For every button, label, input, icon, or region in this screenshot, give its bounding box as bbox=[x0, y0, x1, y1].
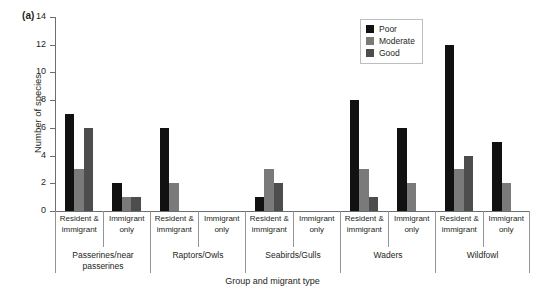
category-axis: Resident & immigrantImmigrant onlyReside… bbox=[55, 211, 530, 273]
x-axis-title: Group and migrant type bbox=[0, 276, 545, 286]
bar-moderate-2 bbox=[169, 183, 179, 211]
bar-moderate-9 bbox=[502, 183, 512, 211]
bar-moderate-8 bbox=[454, 169, 464, 211]
y-axis-title: Number of species bbox=[32, 34, 43, 194]
y-axis-line bbox=[55, 17, 56, 211]
y-axis-tick-label: 8 bbox=[41, 94, 46, 104]
group-label: Passerines/near passerines bbox=[55, 247, 150, 273]
y-axis-tick-label: 0 bbox=[41, 205, 46, 215]
legend-label: Good bbox=[379, 48, 400, 58]
legend-item: Good bbox=[366, 47, 415, 59]
bar-moderate-4 bbox=[264, 169, 274, 211]
subcategory-label: Resident & immigrant bbox=[435, 211, 483, 247]
legend-swatch-icon bbox=[366, 49, 374, 57]
bar-moderate-7 bbox=[407, 183, 417, 211]
legend-swatch-icon bbox=[366, 25, 374, 33]
subcategory-label: Resident & immigrant bbox=[340, 211, 388, 247]
legend-label: Poor bbox=[379, 24, 397, 34]
group-label: Raptors/Owls bbox=[150, 247, 245, 273]
group-row: Passerines/near passerinesRaptors/OwlsSe… bbox=[55, 247, 530, 273]
y-axis-tick-label: 10 bbox=[36, 66, 46, 76]
y-axis-tick: 2 bbox=[50, 183, 55, 184]
legend-item: Poor bbox=[366, 23, 415, 35]
group-label: Waders bbox=[340, 247, 435, 273]
legend-item: Moderate bbox=[366, 35, 415, 47]
subcategory-label: Resident & immigrant bbox=[245, 211, 293, 247]
y-axis-tick-label: 6 bbox=[41, 122, 46, 132]
bar-good-6 bbox=[369, 197, 379, 211]
plot-area: 02468101214 bbox=[55, 17, 530, 211]
legend-swatch-icon bbox=[366, 37, 374, 45]
y-axis-tick: 14 bbox=[50, 17, 55, 18]
bar-moderate-1 bbox=[122, 197, 132, 211]
bar-poor-8 bbox=[445, 45, 455, 211]
subcategory-label: Resident & immigrant bbox=[150, 211, 198, 247]
subcategory-label: Immigrant only bbox=[293, 211, 341, 247]
y-axis-tick-label: 12 bbox=[36, 39, 46, 49]
bar-good-8 bbox=[464, 156, 474, 211]
y-axis-tick-label: 4 bbox=[41, 150, 46, 160]
y-axis-tick: 8 bbox=[50, 100, 55, 101]
bar-poor-2 bbox=[160, 128, 170, 211]
subcategory-label: Immigrant only bbox=[198, 211, 246, 247]
bar-poor-1 bbox=[112, 183, 122, 211]
legend: PoorModerateGood bbox=[360, 19, 423, 64]
y-axis-tick: 4 bbox=[50, 156, 55, 157]
y-axis-tick: 10 bbox=[50, 72, 55, 73]
panel-label: (a) bbox=[22, 10, 35, 21]
subcategory-label: Immigrant only bbox=[388, 211, 436, 247]
y-axis-tick: 6 bbox=[50, 128, 55, 129]
group-label: Seabirds/Gulls bbox=[245, 247, 340, 273]
bar-poor-6 bbox=[350, 100, 360, 211]
subcategory-row: Resident & immigrantImmigrant onlyReside… bbox=[55, 211, 530, 247]
y-axis-tick: 12 bbox=[50, 45, 55, 46]
y-axis-tick-label: 2 bbox=[41, 177, 46, 187]
figure-panel-a: (a) Number of species 02468101214 Reside… bbox=[0, 0, 545, 296]
bar-good-0 bbox=[84, 128, 94, 211]
group-label: Wildfowl bbox=[435, 247, 530, 273]
subcategory-label: Immigrant only bbox=[103, 211, 151, 247]
bar-poor-7 bbox=[397, 128, 407, 211]
bar-poor-9 bbox=[492, 142, 502, 211]
bar-good-4 bbox=[274, 183, 284, 211]
y-axis-tick-label: 14 bbox=[36, 11, 46, 21]
legend-label: Moderate bbox=[379, 36, 415, 46]
bar-poor-0 bbox=[65, 114, 75, 211]
bar-moderate-6 bbox=[359, 169, 369, 211]
bar-good-1 bbox=[131, 197, 141, 211]
subcategory-label: Immigrant only bbox=[483, 211, 531, 247]
bar-moderate-0 bbox=[74, 169, 84, 211]
bar-poor-4 bbox=[255, 197, 265, 211]
subcategory-label: Resident & immigrant bbox=[55, 211, 103, 247]
